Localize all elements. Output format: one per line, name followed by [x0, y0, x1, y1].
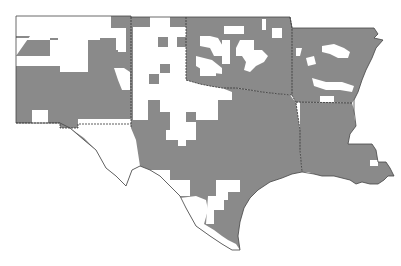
choropleth-map — [0, 0, 401, 266]
state-arkansas — [290, 28, 383, 103]
state-new-mexico — [16, 16, 131, 128]
state-louisiana — [300, 102, 394, 184]
